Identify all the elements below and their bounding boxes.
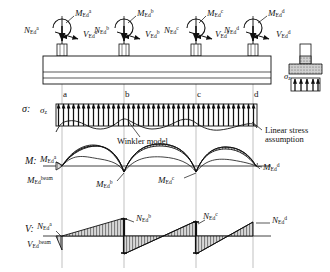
normal-force-label-a: NEda (24, 26, 39, 36)
normal-force-label-b: NEdb (94, 26, 109, 36)
shear-label-d: VEdd (276, 30, 291, 40)
moment-label-b: MEdb (137, 9, 154, 19)
soil-stress-diagram (56, 104, 262, 137)
sigma-z-label: σz (40, 106, 47, 116)
moment-label-a: MEda (75, 9, 91, 19)
moment-diagram-label-beam: MEdbeam (27, 176, 53, 186)
shear-seg-ab-pos (62, 218, 124, 236)
figure-root: MEda NEda VEda MEdb NEdb VEdb MEdc NEdc … (0, 0, 330, 272)
footing-cross-section-detail (289, 44, 322, 91)
linear-stress-block (56, 104, 257, 126)
column-action-d (244, 16, 269, 44)
normal-force-label-c: NEdc (164, 26, 179, 36)
winkler-model-annotation: Winkler model (117, 137, 168, 146)
grid-mark-d: d (254, 89, 259, 99)
bending-moment-diagram (43, 144, 271, 181)
shear-label-b: VEdb (145, 30, 160, 40)
column-action-b (115, 16, 140, 44)
shear-row-label: V: (25, 223, 34, 234)
detail-sigma-z-label: σz (284, 72, 291, 81)
column-action-c (187, 16, 212, 44)
grid-mark-b: b (125, 89, 130, 99)
stress-row-label: σ: (22, 103, 30, 114)
shear-force-diagram (43, 218, 271, 254)
shear-diagram-label-a: NEda (37, 222, 52, 232)
shear-diagram-label-beam: VEdbeam (27, 240, 51, 250)
shear-diagram-label-c: NEdc (203, 212, 218, 222)
shear-seg-a-left (56, 236, 62, 250)
column-action-a (53, 16, 78, 44)
moment-diagram-label-b: MEdb (96, 180, 113, 190)
shear-diagram-label-b: NEdb (136, 214, 151, 224)
linear-stress-annotation: Linear stressassumption (265, 126, 308, 144)
grid-mark-a: a (63, 89, 67, 99)
foundation-beam (43, 56, 271, 84)
moment-diagram-label-a: MEda (40, 155, 56, 165)
moment-row-label: M: (25, 155, 37, 166)
grid-mark-c: c (197, 89, 201, 99)
moment-label-d: MEdd (268, 9, 285, 19)
moment-diagram-label-d: MEdd (263, 163, 280, 173)
moment-diagram-label-c: MEdc (158, 176, 174, 186)
shear-diagram-label-d: NEdd (272, 216, 287, 226)
normal-force-label-d: NEdd (224, 26, 239, 36)
moment-label-c: MEdc (207, 9, 223, 19)
column-stubs (57, 44, 258, 56)
moment-arch-bc (124, 144, 196, 172)
